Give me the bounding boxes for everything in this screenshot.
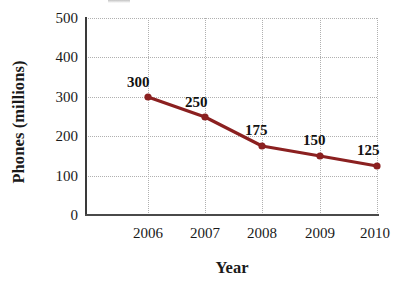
y-tick-400: 400 [32,50,78,65]
data-series-phones [85,18,377,215]
x-tick-2010: 2010 [347,226,399,241]
y-tick-100: 100 [32,169,78,184]
data-point-2008 [258,142,265,149]
data-point-2009 [316,152,323,159]
data-label-2010: 125 [357,143,380,158]
data-label-2006: 300 [127,75,150,90]
x-axis-title: Year [85,258,379,278]
data-label-2007: 250 [185,95,208,110]
y-axis-tick-labels: 500 400 300 200 100 0 [32,0,78,283]
data-point-2006 [144,93,151,100]
y-tick-500: 500 [32,11,78,26]
y-tick-0: 0 [32,208,78,223]
x-axis-line [85,214,379,216]
y-tick-300: 300 [32,90,78,105]
data-label-2009: 150 [303,133,326,148]
x-tick-2009: 2009 [292,226,348,241]
data-point-2007 [201,113,208,120]
line-chart-figure: Phones (millions) 500 400 300 200 100 0 … [0,0,399,283]
gridline-2010 [377,18,378,215]
y-axis-title: Phones (millions) [9,17,29,227]
cropped-title-artifact [108,0,130,3]
y-axis-line [85,17,87,216]
x-tick-2007: 2007 [177,226,233,241]
plot-area: 300 250 175 150 125 [85,18,377,215]
x-tick-2006: 2006 [120,226,176,241]
data-label-2008: 175 [245,123,268,138]
x-tick-2008: 2008 [234,226,290,241]
data-point-2010 [373,162,380,169]
y-tick-200: 200 [32,129,78,144]
